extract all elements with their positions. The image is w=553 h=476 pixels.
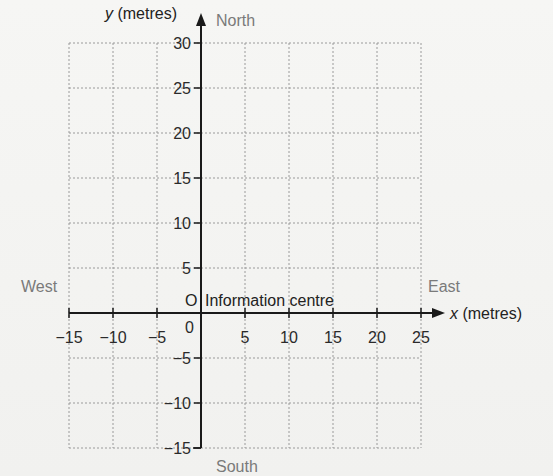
y-tick-labels: 30252015105−5−10−15 (164, 35, 191, 457)
y-axis-unit: (metres) (113, 5, 177, 22)
x-tick-label: −5 (148, 329, 166, 346)
compass-north: North (216, 12, 255, 29)
compass-east: East (428, 278, 461, 295)
grid (69, 43, 421, 448)
x-zero-label: 0 (185, 319, 194, 336)
x-tick-label: 10 (280, 329, 298, 346)
y-tick-label: −10 (164, 395, 191, 412)
compass-south: South (216, 458, 258, 475)
y-tick-label: −15 (164, 440, 191, 457)
y-tick-label: 25 (173, 80, 191, 97)
x-tick-label: 25 (412, 329, 430, 346)
x-tick-label: 15 (324, 329, 342, 346)
y-axis-arrow-icon (196, 13, 206, 26)
x-tick-labels: −15−10−5510152025 (55, 329, 430, 346)
compass-west: West (21, 278, 58, 295)
y-tick-label: 15 (173, 170, 191, 187)
y-tick-label: 5 (182, 260, 191, 277)
y-tick-label: 10 (173, 215, 191, 232)
origin-label-information-centre: Information centre (205, 292, 334, 309)
y-tick-label: 30 (173, 35, 191, 52)
coordinate-grid-chart: −15−10−5510152025 30252015105−5−10−15 y … (0, 0, 553, 476)
y-tick-label: 20 (173, 125, 191, 142)
x-axis-unit: (metres) (458, 305, 522, 322)
x-axis-arrow-icon (432, 308, 445, 318)
y-axis-title: y (metres) (104, 5, 177, 22)
y-tick-label: −5 (173, 350, 191, 367)
origin-marker: O (185, 292, 197, 309)
x-axis-title: x (metres) (449, 305, 522, 322)
x-tick-label: 20 (368, 329, 386, 346)
x-tick-label: −10 (99, 329, 126, 346)
x-tick-label: 5 (241, 329, 250, 346)
x-tick-label: −15 (55, 329, 82, 346)
